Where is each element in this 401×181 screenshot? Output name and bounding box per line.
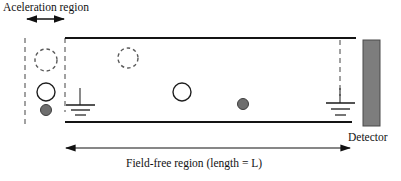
dashed-particle-drift-1 <box>118 48 138 68</box>
extraction-grid-right <box>326 88 355 115</box>
dashed-particle-accel-upper <box>35 49 57 71</box>
schematic-drawing <box>0 0 401 181</box>
detector-plate <box>363 40 380 126</box>
filled-particle-drift-3 <box>238 99 249 110</box>
figure-canvas: Aceleration region Field-free region (le… <box>0 0 401 181</box>
open-particle-accel-lower <box>37 83 55 101</box>
open-particle-drift-2 <box>173 83 191 101</box>
extraction-grid-left <box>66 88 95 115</box>
filled-particle-accel-bottom <box>41 105 52 116</box>
